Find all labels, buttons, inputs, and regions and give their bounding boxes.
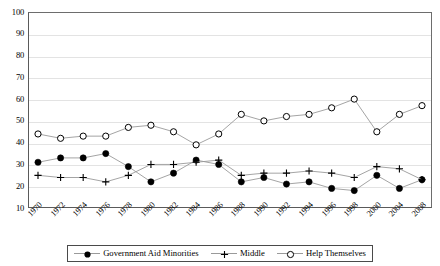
data-point (261, 118, 267, 124)
data-point (238, 172, 245, 179)
data-point (170, 170, 176, 176)
y-axis-tick-label: 20 (0, 182, 24, 191)
series-government-aid-minorities (35, 150, 425, 193)
series-line (38, 160, 422, 182)
data-point (419, 103, 425, 109)
legend-marker-plus-icon (211, 249, 237, 259)
data-point (170, 161, 177, 168)
data-point (80, 133, 86, 139)
data-point (283, 170, 290, 177)
data-point (306, 111, 312, 117)
data-point (329, 105, 335, 111)
chart-container: 100908070605040302010 197019721974197619… (0, 0, 440, 266)
legend-item: Middle (211, 249, 265, 259)
series-help-themselves (35, 96, 425, 148)
y-axis-tick-label: 90 (0, 29, 24, 38)
data-point (351, 187, 357, 193)
data-point (148, 122, 154, 128)
data-point (57, 135, 63, 141)
legend-item: Government Aid Minorities (74, 249, 198, 259)
legend-marker-filled-circle-icon (74, 249, 100, 259)
data-point (193, 142, 199, 148)
data-point (125, 124, 131, 130)
data-point (283, 113, 289, 119)
data-point (125, 164, 131, 170)
legend-label: Middle (239, 249, 265, 258)
data-point (148, 179, 154, 185)
data-point (396, 185, 402, 191)
legend-symbol (220, 250, 229, 259)
legend-symbol (83, 250, 92, 259)
data-point (103, 150, 109, 156)
data-point (170, 129, 176, 135)
data-point (328, 170, 335, 177)
y-axis-tick-label: 70 (0, 73, 24, 82)
y-axis-tick-label: 40 (0, 138, 24, 147)
data-point (374, 172, 380, 178)
y-axis-tick-label: 60 (0, 95, 24, 104)
data-point (34, 172, 41, 179)
data-point (147, 161, 154, 168)
data-point (418, 176, 425, 183)
chart-series-layer (28, 12, 432, 208)
data-point (374, 129, 380, 135)
data-point (57, 155, 63, 161)
data-point (373, 163, 380, 170)
data-point (35, 131, 41, 137)
legend-symbol (286, 250, 295, 259)
data-point (57, 174, 64, 181)
data-point (35, 159, 41, 165)
data-point (305, 167, 312, 174)
legend-item: Help Themselves (277, 249, 366, 259)
data-point (329, 185, 335, 191)
data-point (80, 174, 87, 181)
data-point (80, 155, 86, 161)
series-middle (34, 156, 425, 185)
y-axis-tick-label: 100 (0, 8, 24, 17)
y-axis-tick-label: 50 (0, 116, 24, 125)
legend-label: Help Themselves (305, 249, 366, 258)
y-axis-tick-label: 80 (0, 51, 24, 60)
series-line (38, 99, 422, 145)
data-point (396, 111, 402, 117)
data-point (351, 174, 358, 181)
series-line (38, 154, 422, 191)
data-point (238, 179, 244, 185)
legend-label: Government Aid Minorities (102, 249, 198, 258)
data-point (396, 165, 403, 172)
legend-marker-open-circle-icon (277, 249, 303, 259)
chart-legend: Government Aid MinoritiesMiddleHelp Them… (67, 245, 373, 262)
data-point (238, 111, 244, 117)
data-point (125, 172, 132, 179)
data-point (103, 133, 109, 139)
x-axis: 1970197219741976197819801982198419861988… (0, 210, 440, 246)
y-axis-tick-label: 30 (0, 160, 24, 169)
data-point (351, 96, 357, 102)
data-point (283, 181, 289, 187)
data-point (216, 131, 222, 137)
data-point (306, 179, 312, 185)
data-point (102, 178, 109, 185)
